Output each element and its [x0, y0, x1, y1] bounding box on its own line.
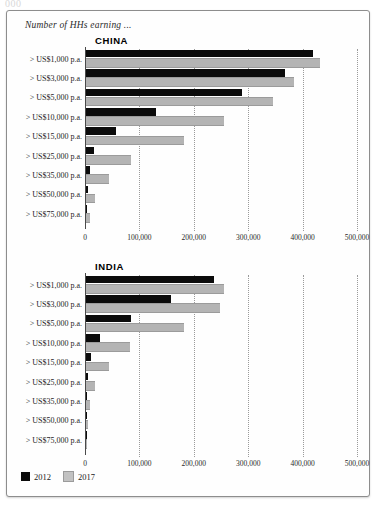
bar-2012: [86, 108, 156, 116]
bar-2017: [86, 58, 320, 68]
legend-swatch-2017: [63, 471, 74, 482]
panel-title-china: CHINA: [95, 35, 128, 46]
category-label: > US$50,000 p.a.: [26, 416, 82, 425]
chart-frame: Number of HHs earning ... CHINA > US$1,0…: [6, 10, 370, 497]
bar-2017: [86, 116, 224, 126]
legend-item-2012: 2012: [21, 472, 51, 482]
bar-row: > US$35,000 p.a.: [86, 165, 357, 184]
bar-rows-india: > US$1,000 p.a.> US$3,000 p.a.> US$5,000…: [86, 275, 357, 453]
tick-label: 300,000: [236, 233, 260, 242]
bar-2017: [86, 362, 109, 372]
bar-row: > US$1,000 p.a.: [86, 275, 357, 294]
bar-2017: [86, 155, 131, 165]
bar-2012: [86, 315, 131, 323]
tick-label: 400,000: [290, 459, 314, 468]
bar-2012: [86, 205, 87, 213]
category-label: > US$15,000 p.a.: [26, 132, 82, 141]
scan-artifact-text: 000: [5, 0, 22, 9]
bar-2017: [86, 303, 220, 313]
bar-row: > US$25,000 p.a.: [86, 146, 357, 165]
bar-2017: [86, 400, 90, 410]
bar-2017: [86, 213, 90, 223]
bar-row: > US$10,000 p.a.: [86, 107, 357, 126]
bar-2017: [86, 323, 184, 333]
bar-2017: [86, 194, 95, 204]
tick-label: 500,000: [345, 233, 369, 242]
bar-2012: [86, 412, 87, 420]
category-label: > US$5,000 p.a.: [30, 319, 82, 328]
legend-swatch-2012: [21, 472, 30, 481]
category-label: > US$10,000 p.a.: [26, 338, 82, 347]
category-label: > US$15,000 p.a.: [26, 358, 82, 367]
bar-2012: [86, 186, 88, 194]
bar-2012: [86, 147, 94, 155]
bar-row: > US$3,000 p.a.: [86, 68, 357, 87]
bar-2012: [86, 373, 88, 381]
bar-2012: [86, 276, 214, 284]
bar-row: > US$10,000 p.a.: [86, 333, 357, 352]
bar-2017: [86, 342, 130, 352]
bar-row: > US$15,000 p.a.: [86, 353, 357, 372]
category-label: > US$75,000 p.a.: [26, 435, 82, 444]
panel-title-india: INDIA: [95, 261, 124, 272]
bar-2012: [86, 89, 242, 97]
category-label: > US$1,000 p.a.: [30, 280, 82, 289]
category-label: > US$10,000 p.a.: [26, 112, 82, 121]
chart-legend: 20122017: [21, 471, 95, 482]
bar-row: > US$50,000 p.a.: [86, 185, 357, 204]
bar-2017: [86, 381, 95, 391]
tick-label: 500,000: [345, 459, 369, 468]
bar-2012: [86, 295, 171, 303]
tick-label: 100,000: [127, 233, 151, 242]
bar-row: > US$3,000 p.a.: [86, 294, 357, 313]
tick-label: 300,000: [236, 459, 260, 468]
bar-2012: [86, 392, 87, 400]
bar-row: > US$15,000 p.a.: [86, 127, 357, 146]
tick-label: 0: [83, 233, 87, 242]
bar-2017: [86, 284, 224, 294]
bar-2017: [86, 97, 273, 107]
tick-label: 200,000: [182, 459, 206, 468]
bar-2017: [86, 439, 87, 449]
bar-2017: [86, 420, 88, 430]
gridline: [357, 49, 358, 231]
bar-rows-china: > US$1,000 p.a.> US$3,000 p.a.> US$5,000…: [86, 49, 357, 227]
gridline: [357, 275, 358, 457]
category-label: > US$1,000 p.a.: [30, 54, 82, 63]
bar-row: > US$5,000 p.a.: [86, 88, 357, 107]
bar-2012: [86, 334, 100, 342]
bar-row: > US$75,000 p.a.: [86, 204, 357, 223]
category-label: > US$3,000 p.a.: [30, 74, 82, 83]
bar-2012: [86, 50, 313, 58]
bar-2012: [86, 166, 90, 174]
bar-row: > US$25,000 p.a.: [86, 372, 357, 391]
category-label: > US$5,000 p.a.: [30, 93, 82, 102]
bar-row: > US$35,000 p.a.: [86, 391, 357, 410]
bar-2012: [86, 431, 87, 439]
category-label: > US$75,000 p.a.: [26, 209, 82, 218]
bar-row: > US$75,000 p.a.: [86, 430, 357, 449]
plot-area-india: > US$1,000 p.a.> US$3,000 p.a.> US$5,000…: [85, 275, 357, 453]
tick-label: 400,000: [290, 233, 314, 242]
plot-area-china: > US$1,000 p.a.> US$3,000 p.a.> US$5,000…: [85, 49, 357, 227]
bar-2017: [86, 77, 294, 87]
bar-2017: [86, 136, 184, 146]
bar-row: > US$5,000 p.a.: [86, 314, 357, 333]
legend-item-2017: 2017: [63, 471, 95, 482]
figure-title: Number of HHs earning ...: [25, 20, 132, 30]
bar-2012: [86, 69, 285, 77]
bar-2012: [86, 127, 116, 135]
category-label: > US$35,000 p.a.: [26, 171, 82, 180]
category-label: > US$35,000 p.a.: [26, 397, 82, 406]
tick-label: 0: [83, 459, 87, 468]
category-label: > US$3,000 p.a.: [30, 300, 82, 309]
bar-row: > US$50,000 p.a.: [86, 411, 357, 430]
tick-label: 100,000: [127, 459, 151, 468]
legend-label-2017: 2017: [78, 472, 95, 482]
category-label: > US$25,000 p.a.: [26, 377, 82, 386]
bar-2012: [86, 353, 91, 361]
category-label: > US$25,000 p.a.: [26, 151, 82, 160]
bar-row: > US$1,000 p.a.: [86, 49, 357, 68]
category-label: > US$50,000 p.a.: [26, 190, 82, 199]
legend-label-2012: 2012: [34, 472, 51, 482]
